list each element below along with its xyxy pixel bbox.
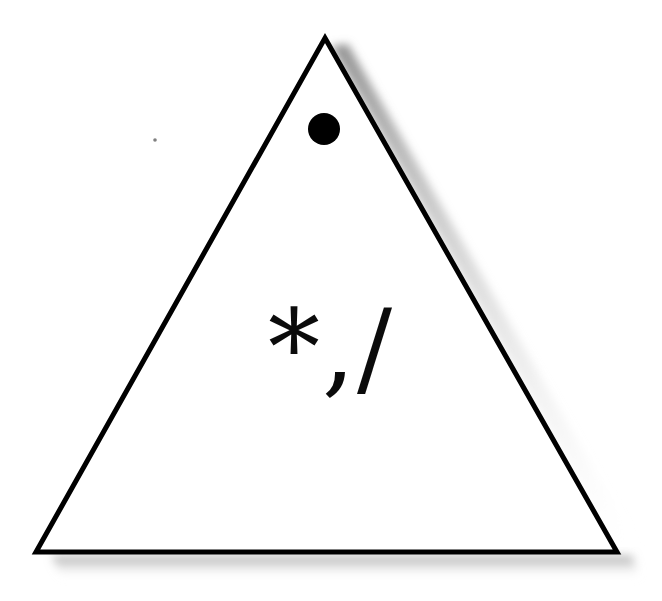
base-shadow — [52, 556, 640, 578]
figure-canvas: *,/ — [0, 0, 662, 601]
dot-marker — [308, 113, 340, 145]
symbol-text: *,/ — [0, 296, 662, 400]
dust-speck — [153, 138, 157, 142]
